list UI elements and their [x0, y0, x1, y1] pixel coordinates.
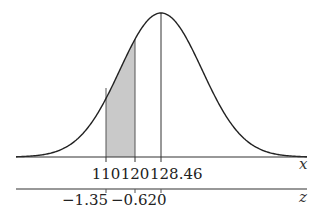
x-tick-label-110: 110	[92, 165, 121, 183]
shaded-region	[106, 39, 135, 157]
z-tick-label-2: −0.62	[111, 191, 157, 209]
z-axis-label: z	[298, 188, 307, 206]
z-tick-label-3: 0	[157, 191, 167, 209]
x-tick-label-120: 120	[121, 165, 150, 183]
x-tick-label-mean: 128.46	[150, 165, 203, 183]
normal-curve-chart: x 110 120 128.46 z −1.35 −0.62 0	[0, 0, 327, 223]
x-axis-label: x	[299, 155, 308, 173]
z-tick-label-1: −1.35	[62, 191, 108, 209]
